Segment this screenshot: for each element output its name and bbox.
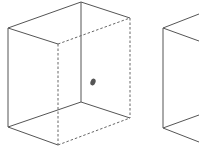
visible-edge bbox=[163, 14, 199, 28]
cube-with-dot bbox=[8, 2, 130, 145]
visible-edge bbox=[8, 127, 58, 145]
visible-edge bbox=[8, 102, 81, 127]
hidden-edge bbox=[58, 118, 130, 145]
visible-edge bbox=[81, 102, 130, 118]
visible-edge bbox=[8, 2, 81, 28]
visible-edge bbox=[163, 128, 199, 142]
cube-diagram bbox=[0, 0, 199, 147]
visible-edge bbox=[8, 28, 58, 44]
hidden-edge bbox=[58, 18, 130, 44]
partial-cube bbox=[163, 14, 199, 142]
visible-edge bbox=[81, 2, 130, 18]
visible-edge bbox=[163, 28, 199, 41]
visible-edge bbox=[163, 115, 199, 128]
dot-marker bbox=[89, 78, 96, 86]
